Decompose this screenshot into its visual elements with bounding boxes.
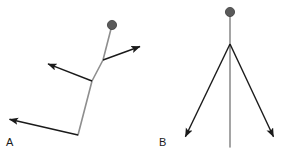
figure-root: A B xyxy=(0,0,292,158)
diagram-canvas: A B xyxy=(0,0,292,158)
panel-b-label: B xyxy=(159,136,167,148)
panel-a-node-dot xyxy=(107,20,116,29)
canvas-background xyxy=(0,0,292,158)
panel-b-node-dot xyxy=(225,7,234,16)
panel-a-label: A xyxy=(6,136,14,148)
